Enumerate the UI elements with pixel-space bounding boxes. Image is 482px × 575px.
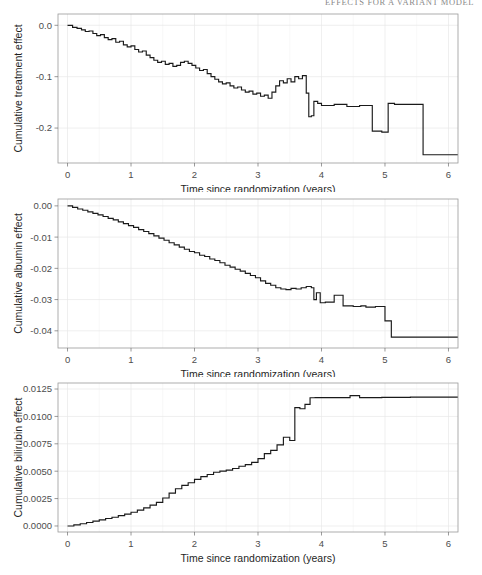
tick-label-y: -0.04	[30, 325, 52, 336]
tick-label-y: 0.0000	[23, 520, 52, 531]
tick-label-x: 4	[319, 169, 324, 180]
tick-label-y: 0.00	[34, 200, 53, 211]
tick-label-x: 4	[319, 538, 324, 549]
tick-label-x: 0	[65, 538, 70, 549]
tick-label-x: 1	[128, 538, 133, 549]
chart-svg-treatment: 01234560.0-0.1-0.2Time since randomizati…	[0, 0, 482, 192]
chart-panel-treatment-effect: 01234560.0-0.1-0.2Time since randomizati…	[0, 0, 482, 192]
tick-label-x: 6	[446, 354, 451, 365]
tick-label-x: 3	[255, 538, 260, 549]
y-axis-title: Cumulative bilirubin effect	[12, 397, 24, 517]
tick-label-x: 2	[192, 538, 197, 549]
tick-label-x: 3	[255, 169, 260, 180]
tick-label-x: 3	[255, 354, 260, 365]
tick-label-x: 4	[319, 354, 324, 365]
tick-label-y: -0.2	[36, 122, 52, 133]
tick-label-x: 5	[382, 169, 387, 180]
tick-label-y: -0.03	[30, 294, 52, 305]
tick-label-y: -0.01	[30, 232, 52, 243]
tick-label-y: 0.0050	[23, 466, 52, 477]
tick-label-y: -0.1	[36, 71, 52, 82]
tick-label-x: 1	[128, 354, 133, 365]
tick-label-x: 2	[192, 354, 197, 365]
tick-label-x: 5	[382, 538, 387, 549]
chart-panel-bilirubin-effect: 01234560.00000.00250.00500.00750.01000.0…	[0, 369, 482, 569]
x-axis-title: Time since randomization (years)	[181, 552, 336, 564]
chart-svg-albumin: 01234560.00-0.01-0.02-0.03-0.04Time sinc…	[0, 185, 482, 377]
tick-label-x: 0	[65, 169, 70, 180]
tick-label-x: 6	[446, 169, 451, 180]
y-axis-title: Cumulative treatment effect	[12, 24, 24, 152]
tick-label-x: 0	[65, 354, 70, 365]
chart-svg-bilirubin: 01234560.00000.00250.00500.00750.01000.0…	[0, 369, 482, 569]
tick-label-y: 0.0125	[23, 383, 52, 394]
tick-label-x: 2	[192, 169, 197, 180]
tick-label-y: 0.0	[39, 20, 52, 31]
tick-label-x: 6	[446, 538, 451, 549]
tick-label-x: 1	[128, 169, 133, 180]
tick-label-y: 0.0100	[23, 411, 52, 422]
tick-label-y: 0.0075	[23, 438, 52, 449]
tick-label-x: 5	[382, 354, 387, 365]
tick-label-y: 0.0025	[23, 493, 52, 504]
tick-label-y: -0.02	[30, 263, 52, 274]
y-axis-title: Cumulative albumin effect	[12, 213, 24, 334]
chart-panel-albumin-effect: 01234560.00-0.01-0.02-0.03-0.04Time sinc…	[0, 185, 482, 377]
